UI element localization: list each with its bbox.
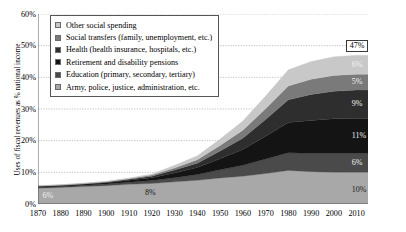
value-annotation: 11% [352, 131, 366, 140]
value-annotation: 10% [352, 185, 367, 194]
value-annotation: 6% [43, 191, 54, 200]
value-annotation: 6% [352, 60, 363, 69]
chart-figure: Uses of fiscal revenues as % national in… [0, 0, 406, 232]
value-annotation: 5% [352, 77, 363, 86]
data-annotations: 6%8%47%6%5%9%11%6%10% [0, 0, 406, 232]
value-annotation: 9% [352, 99, 363, 108]
value-annotation: 8% [145, 188, 156, 197]
value-annotation: 6% [352, 158, 363, 167]
value-annotation: 47% [346, 40, 369, 52]
